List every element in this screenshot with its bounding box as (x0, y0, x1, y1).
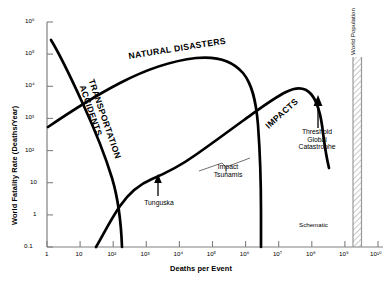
x-tick-label: 10⁷ (273, 251, 282, 258)
y-tick-label: 10⁶ (25, 18, 34, 25)
y-axis-title: World Fatality Rate (Deaths/Year) (11, 106, 19, 225)
y-tick-label: 10 (30, 179, 37, 186)
x-tick-label: 10⁴ (174, 251, 184, 258)
y-tick-label: 10⁴ (25, 82, 35, 89)
threshold-line1: Threshold (302, 128, 332, 135)
x-tick-label: 10⁸ (306, 251, 316, 258)
threshold-line3: Catastrophe (298, 143, 335, 150)
annotation-threshold-global-catastrophe: Threshold Global Catastrophe (288, 128, 346, 151)
x-tick-label: 10⁹ (339, 251, 349, 258)
x-tick-label: 10⁵ (207, 251, 216, 258)
impact-tsunamis-line2: Tsunamis (214, 171, 243, 178)
y-tick-label: 10³ (25, 114, 34, 121)
annotation-tunguska: Tunguska (137, 199, 181, 207)
annotation-schematic: Schematic (299, 222, 328, 229)
impact-tsunamis-line1: Impact (218, 163, 238, 170)
x-tick-label: 10⁶ (240, 251, 249, 258)
world-population-band (353, 57, 362, 247)
y-tick-label: 1 (33, 211, 36, 218)
x-tick-label: 10 (76, 251, 83, 258)
threshold-line2: Global (307, 136, 327, 143)
x-tick-label: 10¹⁰ (370, 251, 381, 258)
y-tick-label: 0.1 (24, 243, 33, 250)
y-tick-label: 10⁵ (25, 50, 34, 57)
fatality-rate-chart-figure: World Fatality Rate (Deaths/Year) Deaths… (0, 0, 389, 281)
y-axis-ticks (47, 22, 53, 247)
annotation-world-population: World Population (350, 8, 357, 55)
x-tick-label: 10³ (141, 251, 150, 258)
x-tick-label: 1 (45, 251, 48, 258)
x-axis-title: Deaths per Event (170, 265, 232, 273)
x-tick-label: 10² (107, 251, 116, 258)
annotation-impact-tsunamis: Impact Tsunamis (206, 163, 250, 178)
y-tick-label: 10² (25, 147, 34, 154)
